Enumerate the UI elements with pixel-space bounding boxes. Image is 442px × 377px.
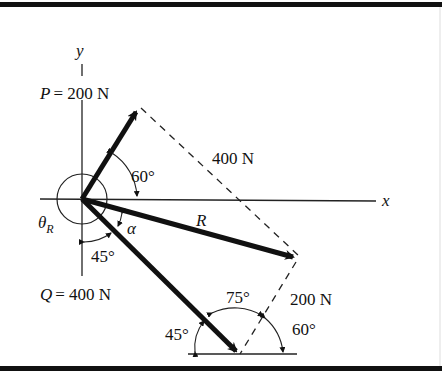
- theta-r-label: θR: [38, 213, 54, 236]
- bottom-border: [0, 366, 442, 371]
- tri-60-label: 60°: [292, 320, 316, 339]
- angle-60-label: 60°: [131, 167, 155, 186]
- arc-45deg: [84, 233, 111, 242]
- side-400N-label: 400 N: [212, 149, 254, 168]
- alpha-label: α: [127, 219, 137, 238]
- y-axis-label: y: [74, 41, 84, 60]
- p-label: P= 200 N: [39, 84, 109, 103]
- tri-45-label: 45°: [165, 325, 189, 344]
- r-label: R: [195, 211, 207, 230]
- arc-tri-60: [265, 318, 283, 352]
- force-diagram: x y P= 200 N Q= 400 N 60° 45° α θR R 400…: [0, 0, 442, 377]
- tri-75-label: 75°: [226, 288, 250, 307]
- vector-P: [82, 112, 136, 199]
- arc-tri-75: [212, 308, 263, 316]
- dashed-side-400N: [141, 108, 299, 256]
- side-200N-label: 200 N: [290, 290, 332, 309]
- dashed-side-200N: [240, 262, 296, 354]
- q-label: Q= 400 N: [40, 285, 111, 304]
- arc-tri-45: [195, 321, 204, 352]
- arc-alpha: [118, 213, 122, 226]
- top-border: [0, 2, 442, 7]
- angle-45-origin-label: 45°: [91, 247, 115, 266]
- x-axis-label: x: [381, 191, 390, 210]
